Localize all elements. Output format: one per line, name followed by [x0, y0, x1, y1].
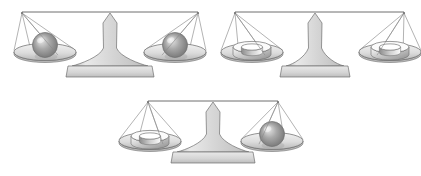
balance-scales-diagram — [0, 0, 421, 176]
top-right-scale-left-object-ring — [233, 41, 271, 60]
top-right-scale — [221, 12, 421, 77]
pan-cord-4 — [198, 13, 206, 51]
scale-column — [177, 102, 249, 152]
diagram-canvas — [0, 0, 421, 176]
scale-column — [72, 13, 148, 66]
pan-cord-1 — [14, 13, 22, 51]
ring-hole — [139, 133, 160, 139]
top-right-scale-left-pan-group — [221, 12, 283, 63]
top-left-scale — [14, 12, 206, 77]
bottom-center-scale-left-pan-group — [119, 101, 181, 152]
top-left-scale-right-object-sphere — [163, 33, 188, 61]
top-left-scale-left-pan-group — [14, 12, 76, 63]
bottom-center-scale — [119, 101, 303, 163]
scale-base — [66, 66, 154, 77]
scale-base — [171, 152, 255, 163]
top-left-scale-right-pan-group — [144, 12, 206, 63]
top-right-scale-right-object-ring — [371, 41, 409, 60]
scale-column — [286, 13, 344, 66]
pan-cord-1 — [221, 13, 235, 51]
scale-base — [280, 66, 350, 77]
sphere-object — [163, 33, 188, 58]
top-right-scale-right-pan-group — [359, 12, 421, 63]
bottom-center-scale-right-pan-group — [241, 101, 303, 152]
sphere-object — [33, 33, 58, 58]
bottom-center-scale-left-object-ring — [131, 130, 169, 149]
top-left-scale-left-object-sphere — [33, 33, 58, 61]
